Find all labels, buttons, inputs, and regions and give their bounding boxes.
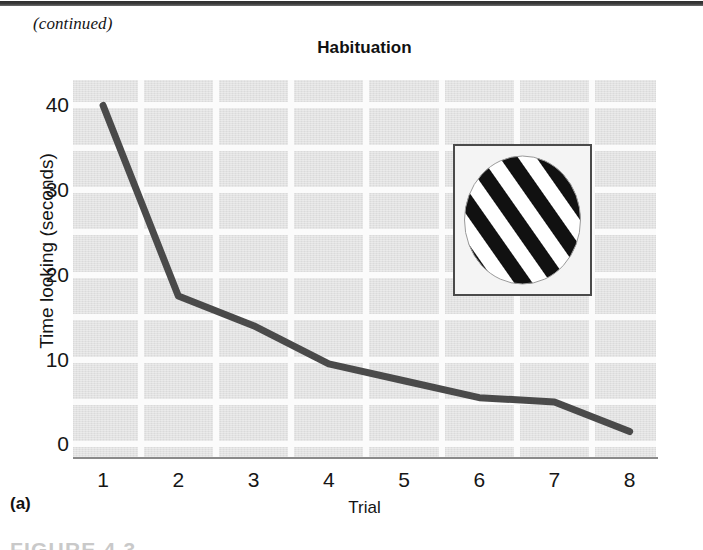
x-axis-ticks: 12345678 — [73, 468, 656, 496]
continued-label: (continued) — [33, 14, 112, 34]
y-tick-label: 40 — [25, 94, 69, 115]
page-top-rule — [0, 1, 703, 6]
habituation-stimulus-inset — [453, 144, 592, 296]
striped-circle-icon — [455, 146, 590, 294]
x-axis-line — [73, 457, 658, 459]
figure-caption-cutoff: FIGURE 4.3 — [10, 538, 136, 550]
x-tick-label: 1 — [83, 468, 123, 492]
x-tick-label: 5 — [384, 468, 424, 492]
x-tick-label: 4 — [309, 468, 349, 492]
x-tick-label: 7 — [534, 468, 574, 492]
y-axis-title: Time looking (seconds) — [36, 121, 58, 381]
panel-letter: (a) — [10, 494, 31, 514]
y-tick-label: 0 — [25, 433, 69, 454]
chart-title: Habituation — [73, 38, 656, 58]
x-tick-label: 3 — [234, 468, 274, 492]
x-axis-title: Trial — [73, 498, 656, 518]
x-tick-label: 2 — [158, 468, 198, 492]
x-tick-label: 6 — [459, 468, 499, 492]
x-tick-label: 8 — [610, 468, 650, 492]
